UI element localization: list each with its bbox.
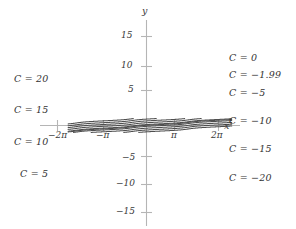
solution-curves-group [68,119,232,133]
curve-label-c-neg199: C = −1.99 [229,69,281,80]
y-tick-label-5: 5 [128,84,134,94]
y-axis-label: y [142,5,147,16]
curve-label-c-15: C = 15 [14,104,49,115]
curve-label-c-neg15: C = −15 [229,143,272,154]
curve-label-c-neg5: C = −5 [229,87,265,98]
curve-label-c-10: C = 10 [14,136,49,147]
y-tick-label-10: 10 [121,60,132,70]
curve-label-c-neg20: C = −20 [229,172,272,183]
curve-label-c-5: C = 5 [20,168,48,179]
y-tick-label-neg5: −5 [122,152,135,162]
x-tick-label-negpi: −π [96,130,109,140]
x-tick-label-pi: π [171,130,177,140]
curve-label-c-20: C = 20 [14,73,49,84]
curve-label-c-neg10: C = −10 [229,115,272,126]
y-tick-label-15: 15 [121,30,132,40]
x-axis-label: x [224,120,229,131]
y-tick-label-neg10: −10 [116,178,135,188]
x-tick-label-2pi: 2π [211,130,223,140]
y-tick-label-neg15: −15 [116,206,135,216]
curve-label-c-0: C = 0 [229,52,257,63]
x-tick-label-neg2pi: −2π [48,130,67,140]
slope-field-solution-curves-figure: C = 20 C = 15 C = 10 C = 5 C = 0 C = −1.… [0,0,296,229]
